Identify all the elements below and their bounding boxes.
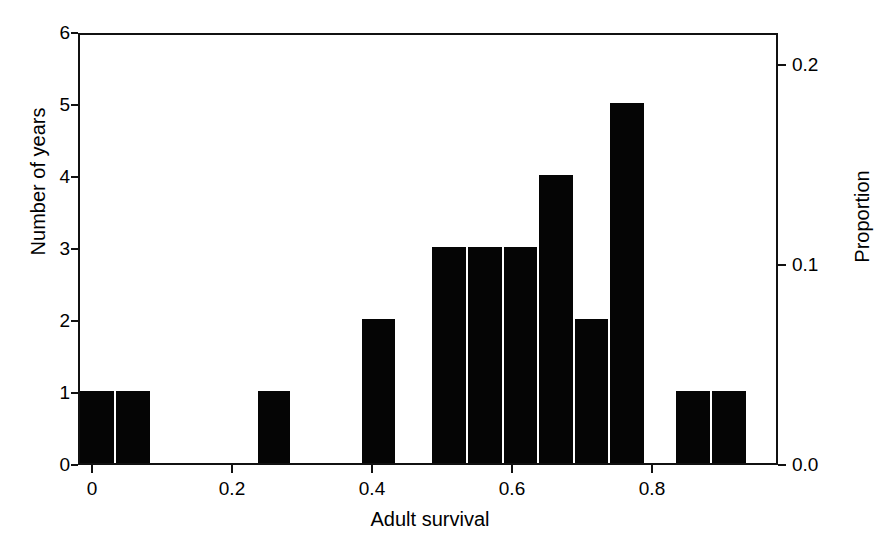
y-axis-left-tick-label: 6	[59, 23, 70, 42]
y-axis-left-tick-label: 2	[59, 311, 70, 330]
y-axis-right-tick	[778, 264, 786, 266]
y-axis-left-tick	[71, 248, 78, 250]
y-axis-left-tick	[71, 392, 78, 394]
y-axis-right-tick-label: 0.2	[792, 55, 818, 74]
y-axis-right-tick	[778, 464, 786, 466]
histogram-bar	[676, 391, 710, 463]
histogram-bar	[258, 391, 290, 463]
x-axis-tick-label: 0.8	[622, 479, 682, 498]
bars-layer	[80, 35, 776, 463]
y-axis-left-tick	[71, 176, 78, 178]
y-axis-left-tick	[71, 464, 78, 466]
y-axis-right-tick-label: 0.1	[792, 255, 818, 274]
histogram-bar	[80, 391, 114, 463]
histogram-bar	[468, 247, 502, 463]
y-axis-left-title: Number of years	[27, 82, 50, 282]
x-axis-tick-label: 0	[62, 479, 122, 498]
y-axis-left-tick-label: 0	[59, 455, 70, 474]
histogram-bar	[539, 175, 573, 463]
histogram-bar	[575, 319, 608, 463]
y-axis-left-tick-label: 5	[59, 95, 70, 114]
x-axis-tick	[511, 465, 513, 473]
y-axis-left-tick-label: 1	[59, 383, 70, 402]
histogram-bar	[432, 247, 466, 463]
y-axis-left-tick-label: 4	[59, 167, 70, 186]
x-axis-tick	[371, 465, 373, 473]
y-axis-right-tick-label: 0.0	[792, 455, 818, 474]
x-axis-tick	[91, 465, 93, 473]
y-axis-left-tick-label: 3	[59, 239, 70, 258]
x-axis-tick	[231, 465, 233, 473]
x-axis-tick	[651, 465, 653, 473]
y-axis-left-tick	[71, 320, 78, 322]
histogram-bar	[712, 391, 746, 463]
histogram-bar	[504, 247, 537, 463]
plot-area	[78, 33, 778, 465]
histogram-bar	[116, 391, 150, 463]
x-axis-tick-label: 0.2	[202, 479, 262, 498]
y-axis-right-tick	[778, 64, 786, 66]
histogram-bar	[362, 319, 395, 463]
x-axis-tick-label: 0.6	[482, 479, 542, 498]
histogram-bar	[610, 103, 644, 463]
y-axis-left-tick	[71, 32, 78, 34]
y-axis-left-tick	[71, 104, 78, 106]
x-axis-tick-label: 0.4	[342, 479, 402, 498]
x-axis-title: Adult survival	[0, 508, 860, 531]
y-axis-right-title: Proportion	[851, 117, 874, 317]
